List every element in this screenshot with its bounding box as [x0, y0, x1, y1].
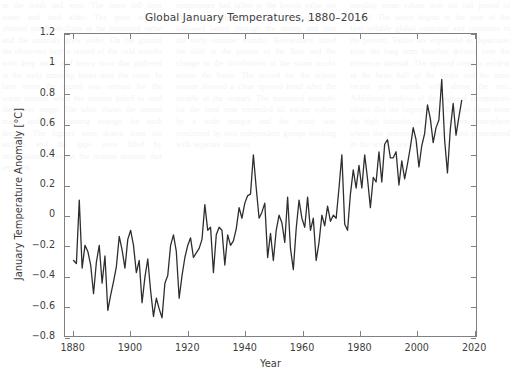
y-axis-tick-label: 0	[0, 208, 55, 219]
x-axis-tick	[475, 331, 476, 336]
y-axis-tick	[65, 34, 70, 35]
y-axis-tick-label: −0.6	[0, 300, 55, 311]
chart-title: Global January Temperatures, 1880–2016	[0, 11, 513, 23]
plot-area	[64, 33, 477, 337]
y-axis-tick-label: −0.4	[0, 269, 55, 280]
x-axis-tick-label: 1880	[51, 342, 95, 353]
x-axis-tick	[188, 331, 189, 336]
y-axis-tick	[471, 155, 476, 156]
y-axis-tick	[65, 338, 70, 339]
x-axis-tick	[245, 331, 246, 336]
x-axis-tick	[73, 331, 74, 336]
y-axis-tick	[471, 186, 476, 187]
y-axis-tick-label: 1	[0, 56, 55, 67]
y-axis-tick	[65, 246, 70, 247]
x-axis-tick-label: 1960	[280, 342, 324, 353]
x-axis-tick	[417, 331, 418, 336]
y-axis-tick-label: 1.2	[0, 26, 55, 37]
y-axis-tick	[471, 125, 476, 126]
chart-figure: Global January Temperatures, 1880–2016 J…	[0, 0, 513, 388]
series-polyline	[74, 79, 462, 318]
y-axis-tick	[65, 307, 70, 308]
y-axis-tick	[65, 125, 70, 126]
x-axis-tick	[360, 34, 361, 39]
x-axis-tick	[73, 34, 74, 39]
temperature-anomaly-line	[65, 34, 476, 336]
y-axis-tick	[471, 338, 476, 339]
y-axis-tick	[471, 94, 476, 95]
x-axis-tick-label: 1900	[108, 342, 152, 353]
x-axis-tick	[245, 34, 246, 39]
x-axis-tick-label: 2020	[452, 342, 496, 353]
x-axis-tick	[475, 34, 476, 39]
y-axis-tick	[471, 246, 476, 247]
x-axis-tick	[360, 331, 361, 336]
y-axis-tick	[65, 64, 70, 65]
y-axis-tick	[65, 216, 70, 217]
y-axis-tick	[65, 94, 70, 95]
y-axis-tick	[471, 216, 476, 217]
y-axis-tick-label: −0.2	[0, 239, 55, 250]
x-axis-tick	[130, 34, 131, 39]
y-axis-tick	[471, 277, 476, 278]
x-axis-tick	[303, 331, 304, 336]
x-axis-tick-label: 1920	[165, 342, 209, 353]
x-axis-tick	[188, 34, 189, 39]
y-axis-tick	[65, 186, 70, 187]
y-axis-tick-label: −0.8	[0, 330, 55, 341]
y-axis-tick-label: 0.2	[0, 178, 55, 189]
x-axis-label: Year	[64, 358, 477, 369]
x-axis-tick-label: 1940	[223, 342, 267, 353]
x-axis-tick	[303, 34, 304, 39]
y-axis-tick-label: 0.4	[0, 148, 55, 159]
x-axis-tick	[130, 331, 131, 336]
x-axis-tick	[417, 34, 418, 39]
y-axis-tick	[471, 64, 476, 65]
y-axis-tick-label: 0.8	[0, 87, 55, 98]
x-axis-tick-label: 2000	[395, 342, 439, 353]
y-axis-tick	[65, 277, 70, 278]
y-axis-tick	[65, 155, 70, 156]
y-axis-tick	[471, 307, 476, 308]
x-axis-tick-label: 1980	[337, 342, 381, 353]
y-axis-tick-label: 0.6	[0, 117, 55, 128]
